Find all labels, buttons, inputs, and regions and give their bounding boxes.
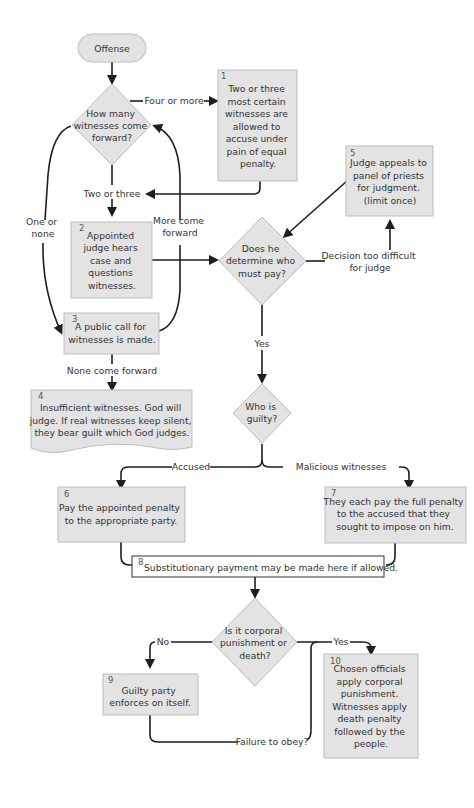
- edge-more-come-a: [159, 245, 180, 331]
- edge-malicious-to-n7: [399, 467, 409, 487]
- label-more-come-forward: More come forward: [153, 215, 207, 238]
- process-node-2: 2 Appointed judge hears case and questio…: [71, 222, 152, 298]
- process-node-9: 9 Guilty party enforces on itself.: [103, 674, 198, 715]
- edge-n6-to-n8: [121, 541, 133, 565]
- process-node-10: 10 Chosen officials apply corporal punis…: [324, 654, 418, 758]
- process-node-1: 1 Two or three most certain witnesses ar…: [218, 70, 297, 181]
- edge-d3-right: [262, 460, 283, 467]
- svg-text:6: 6: [64, 489, 69, 499]
- edge-n5-to-d2: [285, 181, 347, 236]
- edge-failure-up: [307, 642, 318, 740]
- svg-text:Two or three most certai: Two or three most certain witnesses are …: [225, 83, 291, 169]
- label-yes-corporal: Yes: [333, 636, 349, 647]
- edge-d3-left: [210, 444, 262, 467]
- svg-text:8: 8: [138, 557, 143, 567]
- svg-text:They each pay the full penalty: They each pay the full penalty to the ac…: [323, 496, 467, 532]
- svg-text:Appointed judge hears: Appointed judge hears case and questions…: [82, 230, 140, 291]
- decision-corporal-or-death: Is it corporal punishment or death?: [212, 598, 297, 686]
- decision-who-is-guilty: Who is guilty?: [233, 384, 291, 443]
- svg-text:2: 2: [79, 223, 84, 233]
- document-node-4: 4 Insufficient witnesses. God will judge…: [29, 390, 195, 453]
- label-yes: Yes: [254, 338, 270, 349]
- svg-text:1: 1: [221, 71, 226, 81]
- label-four-or-more: Four or more: [144, 95, 204, 106]
- svg-text:Guilty party enforces on: Guilty party enforces on itself.: [109, 685, 190, 708]
- edge-one-or-none-to-n3: [43, 243, 61, 332]
- process-node-5: 5 Judge appeals to panel of priests for …: [346, 146, 433, 216]
- svg-text:Insufficient witnesses. God wi: Insufficient witnesses. God will judge. …: [29, 402, 195, 438]
- svg-text:4: 4: [38, 391, 43, 401]
- label-failure-to-obey: Failure to obey?: [236, 736, 309, 747]
- edge-d1-left-a: [45, 126, 71, 220]
- label-decision-too-difficult: Decision too difficult for judge: [321, 250, 418, 273]
- edge-more-come-to-d1: [155, 126, 180, 220]
- edge-no-to-n9: [150, 642, 155, 666]
- edge-n9-failure: [150, 715, 238, 742]
- edge-n1-to-two: [148, 180, 260, 194]
- process-node-3: 3 A public call for witnesses is made.: [64, 313, 159, 354]
- label-two-or-three: Two or three: [83, 188, 141, 199]
- label-none-come-forward: None come forward: [67, 365, 157, 376]
- svg-text:9: 9: [108, 675, 113, 685]
- decision-determine-who-pays: Does he determine who must pay?: [219, 217, 306, 305]
- svg-text:Substitutionary payment may be: Substitutionary payment may be made here…: [144, 562, 398, 573]
- edge-accused-to-n6: [121, 467, 172, 487]
- start-node-offense: Offense: [78, 34, 146, 62]
- label-accused: Accused: [172, 461, 210, 472]
- process-node-7: 7 They each pay the full penalty to the …: [323, 487, 467, 543]
- label-malicious-witnesses: Malicious witnesses: [296, 461, 387, 472]
- svg-text:Who is guilty?: Who is guilty?: [245, 401, 279, 424]
- process-node-8: 8 Substitutionary payment may be made he…: [132, 556, 398, 577]
- edge-yes-to-n10: [350, 642, 371, 653]
- flowchart: Offense How many witnesses come forward?…: [0, 0, 474, 808]
- label-one-or-none: One or none: [26, 216, 60, 239]
- process-node-6: 6 Pay the appointed penalty to the appro…: [58, 487, 185, 542]
- svg-text:Chosen officials apply c: Chosen officials apply corporal punishme…: [332, 663, 410, 749]
- start-label: Offense: [94, 43, 130, 54]
- label-no: No: [157, 636, 170, 647]
- decision-how-many-witnesses: How many witnesses come forward?: [72, 84, 151, 165]
